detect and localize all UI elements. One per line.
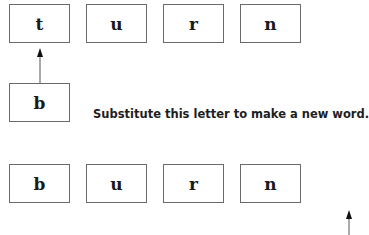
arrow-up-icon xyxy=(343,207,355,235)
letter-box-new-4: n xyxy=(240,164,301,203)
letter-box-original-3: r xyxy=(163,4,224,43)
instruction-text: Substitute this letter to make a new wor… xyxy=(93,107,369,121)
letter-box-new-3: r xyxy=(163,164,224,203)
letter-box-new-2: u xyxy=(86,164,147,203)
letter-box-original-2: u xyxy=(86,4,147,43)
letter-box-new-1: b xyxy=(9,164,70,203)
letter-box-original-4: n xyxy=(240,4,301,43)
substitute-letter-box: b xyxy=(9,83,70,122)
arrow-up-icon xyxy=(34,44,46,84)
letter-box-original-1: t xyxy=(9,4,70,43)
